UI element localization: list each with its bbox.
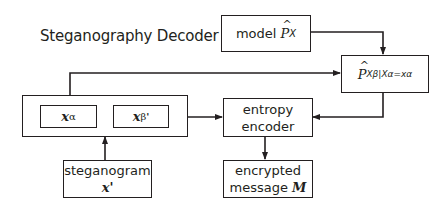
- encrypted-message-symbol: M: [292, 180, 306, 195]
- entropy-encoder-line1: entropy: [243, 101, 293, 118]
- x-beta-prime: ': [146, 108, 149, 125]
- encrypted-message-block: encrypted message M: [223, 160, 313, 198]
- x-alpha-subscript: α: [69, 108, 76, 125]
- x-beta-symbol: x: [133, 108, 141, 125]
- x-alpha-block: xα: [40, 105, 97, 128]
- x-alpha-symbol: x: [61, 108, 69, 125]
- x-beta-block: xβ': [113, 105, 169, 128]
- conditional-probability-block: PXβ|Xα=xα: [341, 55, 429, 93]
- encrypted-message-line2: message: [230, 180, 288, 195]
- encrypted-message-line2-group: message M: [230, 179, 307, 196]
- model-label: model: [236, 25, 276, 42]
- steganogram-symbol: x': [102, 179, 114, 196]
- conditional-subscript: Xβ|Xα=xα: [366, 66, 412, 83]
- encrypted-message-line1: encrypted: [235, 162, 301, 179]
- steganogram-block: steganogram x': [63, 160, 152, 198]
- steganogram-label: steganogram: [64, 162, 151, 179]
- model-block: model PX: [221, 15, 311, 52]
- entropy-encoder-line2: encoder: [242, 118, 295, 135]
- entropy-encoder-block: entropy encoder: [223, 98, 313, 137]
- conditional-symbol: P: [358, 66, 367, 83]
- model-symbol: P: [281, 25, 290, 42]
